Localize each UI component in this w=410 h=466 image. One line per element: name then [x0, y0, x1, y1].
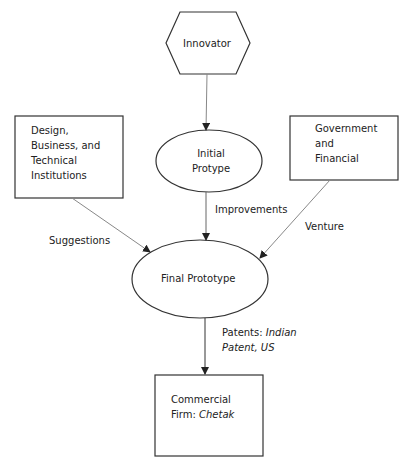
initial-line-1: Initial — [190, 146, 232, 161]
government-line-2: and — [315, 136, 377, 151]
innovator-label: Innovator — [183, 36, 231, 51]
commercial-firm-name: Chetak — [199, 409, 234, 420]
patents-line-2: Patent, US — [222, 340, 297, 355]
government-line-1: Government — [315, 121, 377, 136]
venture-label: Venture — [305, 219, 344, 234]
government-financial-label: Government and Financial — [315, 121, 377, 166]
design-line-1: Design, — [31, 123, 100, 138]
government-line-3: Financial — [315, 151, 377, 166]
patents-prefix: Patents: — [222, 327, 266, 338]
initial-prototype-label: Initial Protype — [190, 146, 232, 176]
final-prototype-label: Final Prototype — [161, 271, 235, 286]
suggestions-label: Suggestions — [49, 233, 110, 248]
edge-innovator-initial — [206, 74, 207, 130]
design-line-3: Technical — [31, 153, 100, 168]
initial-line-2: Protype — [190, 161, 232, 176]
improvements-label: Improvements — [215, 202, 287, 217]
design-line-2: Business, and — [31, 138, 100, 153]
patents-line-1: Patents: Indian — [222, 325, 297, 340]
commercial-line-1: Commercial — [171, 392, 234, 407]
design-institutions-label: Design, Business, and Technical Institut… — [31, 123, 100, 183]
patents-label: Patents: Indian Patent, US — [222, 325, 297, 355]
commercial-firm-prefix: Firm: — [171, 409, 199, 420]
commercial-firm-label: Commercial Firm: Chetak — [171, 392, 234, 422]
design-line-4: Institutions — [31, 168, 100, 183]
patents-indian: Indian — [266, 327, 297, 338]
commercial-line-2: Firm: Chetak — [171, 407, 234, 422]
